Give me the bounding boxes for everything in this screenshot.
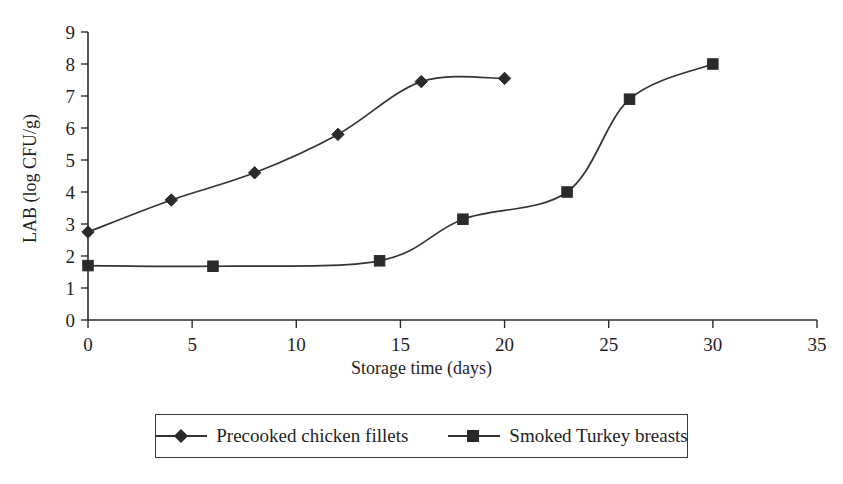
- x-tick-label: 35: [808, 334, 827, 355]
- x-tick-label: 0: [83, 334, 93, 355]
- data-point-square: [83, 260, 94, 271]
- x-tick-label: 30: [703, 334, 722, 355]
- chart-figure: 012345678905101520253035 LAB (log CFU/g)…: [0, 0, 843, 484]
- y-axis-title-wrap: LAB (log CFU/g): [4, 60, 44, 300]
- chart-legend: Precooked chicken fillets Smoked Turkey …: [155, 414, 688, 458]
- data-point-diamond: [498, 72, 510, 84]
- y-tick-label: 9: [66, 22, 76, 43]
- diamond-marker-icon: [155, 428, 207, 444]
- tick-labels-group: 012345678905101520253035: [66, 22, 827, 355]
- series-line-0: [88, 77, 505, 232]
- data-point-diamond: [82, 226, 94, 238]
- x-axis-title: Storage time (days): [0, 358, 843, 379]
- data-point-diamond: [165, 194, 177, 206]
- data-point-square: [208, 261, 219, 272]
- y-tick-label: 1: [66, 278, 76, 299]
- data-point-diamond: [248, 167, 260, 179]
- x-tick-label: 15: [391, 334, 410, 355]
- x-tick-label: 10: [287, 334, 306, 355]
- data-point-diamond: [332, 128, 344, 140]
- y-tick-label: 4: [66, 182, 76, 203]
- x-tick-label: 25: [599, 334, 618, 355]
- legend-label-2: Smoked Turkey breasts: [509, 425, 687, 447]
- y-axis-title: LAB (log CFU/g): [20, 69, 41, 289]
- y-tick-label: 3: [66, 214, 76, 235]
- legend-entry-smoked-turkey-breasts: Smoked Turkey breasts: [448, 425, 687, 447]
- legend-entry-precooked-chicken-fillets: Precooked chicken fillets: [155, 425, 408, 447]
- square-marker-icon: [448, 428, 500, 444]
- legend-label-1: Precooked chicken fillets: [216, 425, 408, 447]
- data-point-diamond: [415, 75, 427, 87]
- y-tick-label: 7: [66, 86, 76, 107]
- data-point-square: [374, 256, 385, 266]
- y-tick-label: 0: [66, 310, 76, 331]
- y-tick-label: 5: [66, 150, 76, 171]
- x-tick-label: 20: [495, 334, 514, 355]
- series-line-1: [88, 64, 713, 266]
- data-point-square: [708, 59, 719, 70]
- data-point-square: [562, 187, 573, 198]
- y-tick-label: 2: [66, 246, 76, 267]
- y-tick-label: 6: [66, 118, 76, 139]
- series-group: [82, 59, 718, 272]
- y-tick-label: 8: [66, 54, 76, 75]
- line-chart-canvas: 012345678905101520253035: [0, 0, 843, 484]
- data-point-square: [458, 214, 469, 225]
- data-point-square: [624, 94, 635, 105]
- x-tick-label: 5: [187, 334, 197, 355]
